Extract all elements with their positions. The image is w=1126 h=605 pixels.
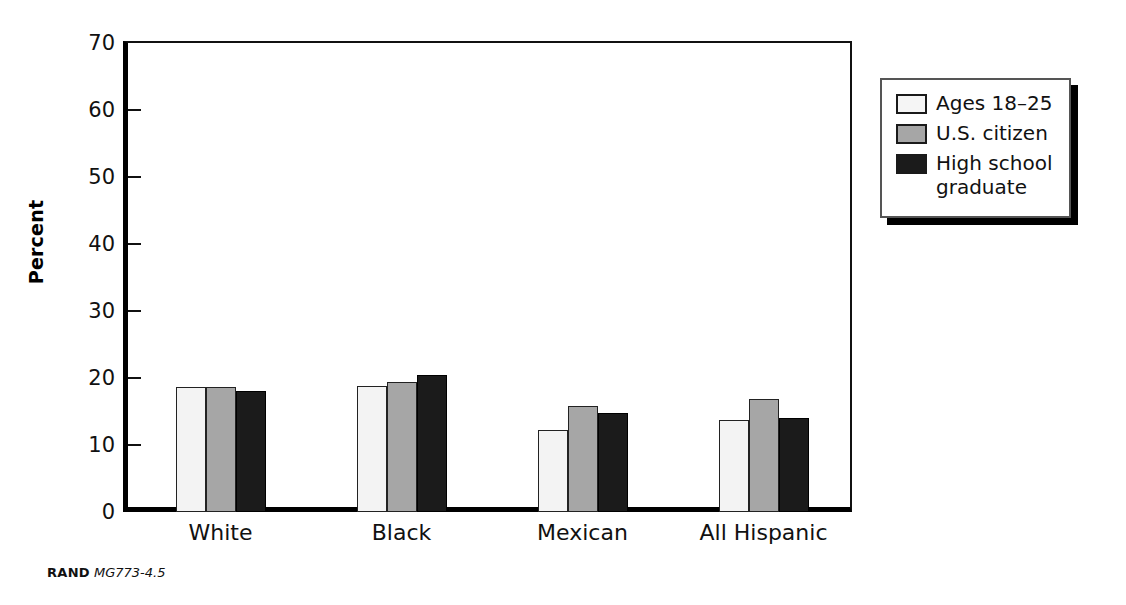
y-axis-tick-label-50: 50: [88, 165, 115, 189]
y-axis-title: Percent: [25, 200, 47, 284]
y-axis-tick-label-60: 60: [88, 98, 115, 122]
plot-area: [128, 43, 852, 512]
y-axis-tick-30: [128, 310, 141, 312]
bar: [719, 420, 749, 512]
bar: [176, 387, 206, 512]
footer-document-id: MG773-4.5: [94, 565, 165, 580]
bar: [538, 430, 568, 512]
bar: [598, 413, 628, 512]
y-axis-tick-label-20: 20: [88, 366, 115, 390]
y-axis-tick-label-40: 40: [88, 232, 115, 256]
bar: [236, 391, 266, 512]
y-axis-tick-20: [128, 377, 141, 379]
bar: [568, 406, 598, 512]
x-axis-category-labels: WhiteBlackMexicanAll Hispanic: [128, 520, 852, 554]
y-axis-tick-labels: 010203040506070: [60, 43, 115, 512]
bar: [417, 375, 447, 512]
bar: [357, 386, 387, 512]
y-axis-tick-label-70: 70: [88, 31, 115, 55]
black-swatch: [896, 154, 927, 174]
legend-item-label: High school graduate: [936, 151, 1052, 199]
light-gray-swatch: [896, 94, 927, 114]
y-axis-tick-60: [128, 109, 141, 111]
legend-item[interactable]: Ages 18–25: [896, 91, 1069, 115]
bar: [779, 418, 809, 512]
x-axis-label-mexican: Mexican: [537, 520, 628, 545]
x-axis-label-white: White: [189, 520, 253, 545]
x-axis-label-all-hispanic: All Hispanic: [700, 520, 828, 545]
medium-gray-swatch: [896, 124, 927, 144]
y-axis-tick-50: [128, 176, 141, 178]
legend-item-label: U.S. citizen: [936, 121, 1048, 145]
bar: [387, 382, 417, 512]
footer-source: RAND: [47, 565, 90, 580]
y-axis-tick-10: [128, 444, 141, 446]
x-axis-label-black: Black: [372, 520, 432, 545]
y-axis-tick-40: [128, 243, 141, 245]
legend-item[interactable]: High school graduate: [896, 151, 1069, 199]
bar: [206, 387, 236, 512]
y-axis-tick-label-10: 10: [88, 433, 115, 457]
figure-footer: RANDMG773-4.5: [47, 565, 165, 580]
y-axis-tick-label-0: 0: [102, 500, 115, 524]
y-axis-tick-label-30: 30: [88, 299, 115, 323]
bar: [749, 399, 779, 512]
legend-item-label: Ages 18–25: [936, 91, 1052, 115]
chart-legend: Ages 18–25U.S. citizenHigh school gradua…: [880, 78, 1071, 218]
bar-chart-figure: Percent 010203040506070 WhiteBlackMexica…: [0, 0, 1126, 605]
legend-item[interactable]: U.S. citizen: [896, 121, 1069, 145]
